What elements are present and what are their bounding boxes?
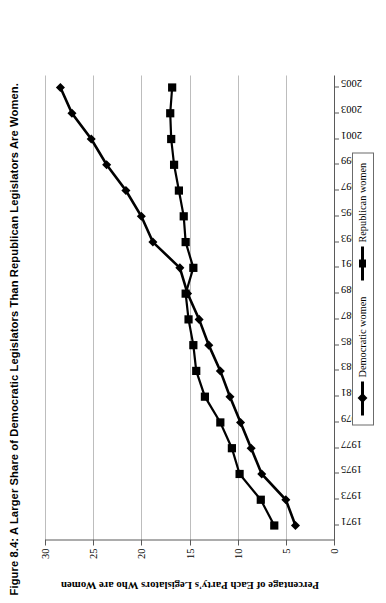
y-tick	[93, 539, 94, 545]
square-marker	[228, 444, 236, 452]
square-marker	[180, 212, 188, 220]
x-tick-label: 2005	[341, 78, 362, 89]
diamond-marker	[56, 82, 65, 91]
diamond-marker-icon	[358, 381, 368, 415]
square-marker	[192, 366, 200, 374]
y-tick	[286, 539, 287, 545]
square-marker	[166, 109, 174, 117]
diamond-marker	[291, 520, 300, 529]
x-tick	[334, 189, 339, 190]
square-marker	[189, 263, 197, 271]
y-tick	[334, 539, 335, 545]
x-tick	[334, 241, 339, 242]
x-tick-label: 1971	[341, 516, 362, 527]
x-tick	[334, 524, 339, 525]
x-tick	[334, 215, 339, 216]
y-axis-title: Percentage of Each Party's Legislators W…	[45, 577, 334, 593]
x-tick	[334, 395, 339, 396]
legend-entry-republican: Republican women	[357, 162, 368, 280]
figure-canvas: Figure 8.4: A Larger Share of Democratic…	[0, 0, 386, 603]
x-tick-label: 2003	[341, 103, 362, 114]
y-tick-label: 25	[88, 548, 99, 559]
legend-label-democratic: Democratic women	[357, 296, 368, 377]
x-tick	[334, 86, 339, 87]
y-tick-label: 20	[136, 548, 147, 559]
plot-area: 051015202530 197119731975197719791981198…	[45, 75, 335, 540]
x-tick	[334, 447, 339, 448]
square-marker	[182, 289, 190, 297]
x-tick	[334, 369, 339, 370]
diamond-marker	[195, 314, 204, 323]
series-line	[170, 87, 274, 525]
x-tick	[334, 112, 339, 113]
diamond-marker	[216, 366, 225, 375]
x-tick	[334, 292, 339, 293]
y-tick-label: 30	[40, 548, 51, 559]
diamond-marker	[204, 340, 213, 349]
x-tick	[334, 421, 339, 422]
series-democratic	[56, 82, 300, 529]
x-tick	[334, 266, 339, 267]
x-tick	[334, 344, 339, 345]
square-marker	[168, 83, 176, 91]
square-marker	[175, 186, 183, 194]
x-tick	[334, 318, 339, 319]
square-marker	[189, 341, 197, 349]
y-axis-title-text: Percentage of Each Party's Legislators W…	[61, 579, 319, 591]
legend-label-republican: Republican women	[357, 162, 368, 242]
square-marker	[270, 521, 278, 529]
square-marker	[182, 237, 190, 245]
figure-title: Figure 8.4: A Larger Share of Democratic…	[8, 9, 20, 595]
square-marker	[235, 469, 243, 477]
x-tick-label: 2001	[341, 129, 362, 140]
legend: Democratic women Republican women	[352, 152, 374, 425]
x-tick	[334, 472, 339, 473]
y-tick	[45, 539, 46, 545]
figure-page: Figure 8.4: A Larger Share of Democratic…	[0, 0, 386, 603]
series-republican	[166, 83, 278, 529]
square-marker	[201, 392, 209, 400]
square-marker	[257, 495, 265, 503]
y-tick	[238, 539, 239, 545]
x-tick	[334, 498, 339, 499]
y-tick	[141, 539, 142, 545]
square-marker-icon	[358, 246, 368, 280]
y-tick-label: 5	[280, 548, 291, 553]
series-line	[60, 87, 295, 525]
square-marker	[216, 418, 224, 426]
series-layer	[45, 75, 334, 539]
diamond-marker	[236, 417, 245, 426]
diamond-marker	[247, 443, 256, 452]
diamond-marker	[225, 392, 234, 401]
x-tick-label: 1973	[341, 490, 362, 501]
x-tick	[334, 138, 339, 139]
square-marker	[167, 134, 175, 142]
legend-entry-democratic: Democratic women	[357, 296, 368, 415]
x-tick-label: 1977	[341, 438, 362, 449]
y-tick-label: 15	[184, 548, 195, 559]
y-tick	[190, 539, 191, 545]
y-tick-label: 10	[232, 548, 243, 559]
square-marker	[170, 160, 178, 168]
square-marker	[184, 315, 192, 323]
x-tick-label: 1975	[341, 464, 362, 475]
x-tick	[334, 163, 339, 164]
y-tick-label: 0	[329, 548, 340, 553]
